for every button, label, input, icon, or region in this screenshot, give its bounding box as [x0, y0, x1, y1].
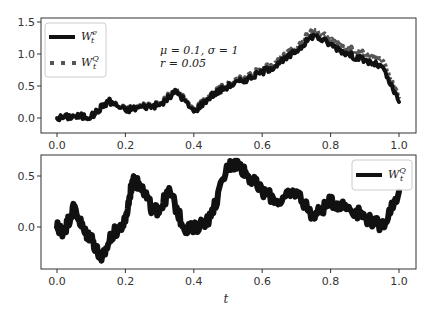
top-legend: Wet WQt [45, 23, 106, 77]
x-tick-label: 0.0 [48, 275, 66, 288]
x-tick-label: 0.8 [322, 139, 340, 152]
x-tick-label: 1.0 [390, 139, 408, 152]
x-tick-label: 0.4 [185, 139, 203, 152]
x-tick-label: 0.4 [185, 275, 203, 288]
figure: 0.00.51.01.5 0.00.20.40.60.81.0 μ = 0.1,… [0, 0, 432, 321]
bottom-axes: 0.00.5 0.00.20.40.60.81.0 WQt t [18, 155, 417, 306]
x-axis-label: t [224, 292, 229, 306]
y-tick-label: 0.5 [18, 80, 36, 93]
y-tick-label: 0.0 [18, 221, 36, 234]
top-xticks: 0.00.20.40.60.81.0 [48, 133, 408, 152]
x-tick-label: 1.0 [390, 275, 408, 288]
x-tick-label: 0.6 [253, 275, 271, 288]
legend-dotted-line-icon [50, 61, 76, 65]
x-tick-label: 0.2 [117, 139, 135, 152]
x-tick-label: 0.0 [48, 139, 66, 152]
bottom-xticks: 0.00.20.40.60.81.0 [48, 269, 408, 288]
x-tick-label: 0.8 [322, 275, 340, 288]
bottom-legend: WQt [352, 160, 412, 190]
top-yticks: 0.00.51.01.5 [18, 16, 42, 125]
x-tick-label: 0.2 [117, 275, 135, 288]
y-tick-label: 0.0 [18, 112, 36, 125]
y-tick-label: 1.0 [18, 48, 36, 61]
bottom-yticks: 0.00.5 [18, 170, 42, 234]
top-axes: 0.00.51.01.5 0.00.20.40.60.81.0 μ = 0.1,… [18, 16, 417, 152]
y-tick-label: 1.5 [18, 16, 36, 29]
annotation-line2: r = 0.05 [160, 57, 206, 70]
annotation-line1: μ = 0.1, σ = 1 [160, 44, 239, 57]
y-tick-label: 0.5 [18, 170, 36, 183]
x-tick-label: 0.6 [253, 139, 271, 152]
